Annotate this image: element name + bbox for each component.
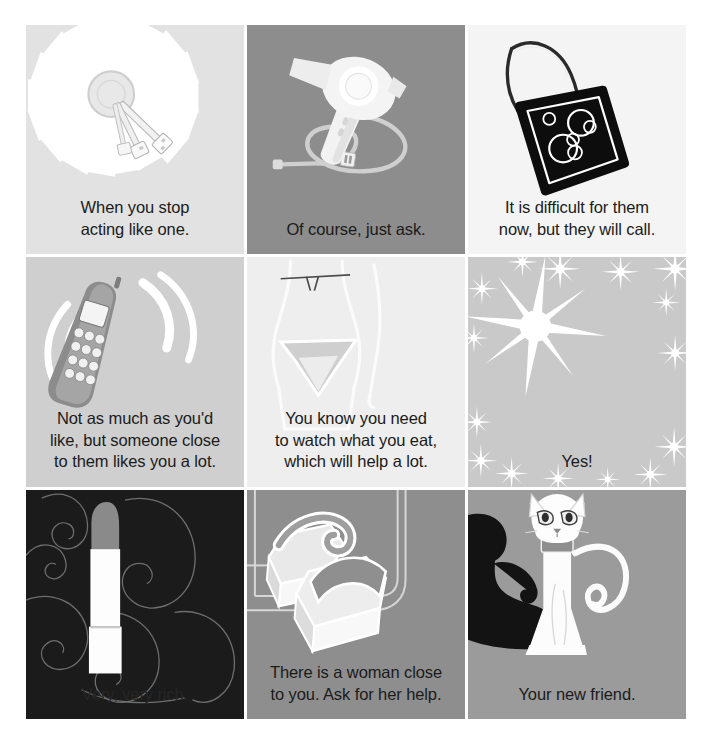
cell-caption: There is a woman close to you. Ask for h… bbox=[247, 662, 465, 719]
fortune-grid: When you stop acting like one. bbox=[26, 25, 686, 719]
cell-cat[interactable]: Your new friend. bbox=[468, 490, 686, 719]
cell-caption: Of course, just ask. bbox=[247, 219, 465, 254]
cell-caption: You know you need to watch what you eat,… bbox=[247, 408, 465, 486]
cell-caption: Not as much as you'd like, but someone c… bbox=[26, 408, 244, 486]
cell-caption: Your new friend. bbox=[468, 684, 686, 719]
cell-hairdryer[interactable]: Of course, just ask. bbox=[247, 25, 465, 254]
cell-caption: It is difficult for them now, but they w… bbox=[468, 197, 686, 254]
cell-bikini[interactable]: You know you need to watch what you eat,… bbox=[247, 257, 465, 486]
cell-caption: Very, very rich. bbox=[26, 684, 244, 719]
cell-mobile-phone[interactable]: Not as much as you'd like, but someone c… bbox=[26, 257, 244, 486]
cell-keys[interactable]: When you stop acting like one. bbox=[26, 25, 244, 254]
cell-sparkle[interactable]: Yes! bbox=[468, 257, 686, 486]
cell-caption: Yes! bbox=[468, 451, 686, 486]
cell-caption: When you stop acting like one. bbox=[26, 197, 244, 254]
cell-lipstick[interactable]: Very, very rich. bbox=[26, 490, 244, 719]
cell-shoes[interactable]: There is a woman close to you. Ask for h… bbox=[247, 490, 465, 719]
cell-handbag[interactable]: It is difficult for them now, but they w… bbox=[468, 25, 686, 254]
